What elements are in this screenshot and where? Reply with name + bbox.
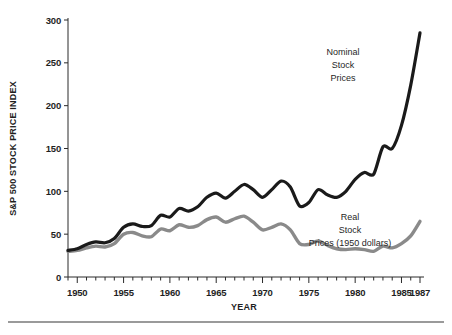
real-label-line: Real bbox=[341, 212, 360, 222]
x-tick-label: 1965 bbox=[206, 287, 227, 298]
real-label-line: Prices (1950 dollars) bbox=[309, 238, 392, 248]
y-tick-label: 200 bbox=[46, 100, 61, 111]
nominal-label: NominalStockPrices bbox=[326, 47, 359, 83]
x-tick-label: 1987 bbox=[410, 287, 430, 298]
y-tick-label: 0 bbox=[56, 272, 61, 283]
y-tick-label: 150 bbox=[46, 143, 61, 154]
x-tick-label: 1960 bbox=[160, 287, 180, 298]
nominal-label-line: Stock bbox=[332, 60, 355, 70]
y-tick-label: 250 bbox=[46, 57, 61, 68]
x-tick-label: 1955 bbox=[113, 287, 134, 298]
y-tick-label: 300 bbox=[46, 15, 61, 26]
x-tick-label: 1950 bbox=[67, 287, 87, 298]
y-tick-label: 100 bbox=[46, 186, 61, 197]
y-axis-title: S&P 500 STOCK PRICE INDEX bbox=[8, 81, 18, 216]
stock-price-index-line-chart: 0501001502002503001950195519601965197019… bbox=[0, 0, 452, 335]
chart-figure: 0501001502002503001950195519601965197019… bbox=[0, 0, 452, 335]
y-tick-label: 50 bbox=[51, 229, 61, 240]
x-tick-label: 1975 bbox=[299, 287, 320, 298]
x-tick-label: 1970 bbox=[252, 287, 272, 298]
nominal-label-line: Prices bbox=[330, 73, 356, 83]
real-label-line: Stock bbox=[339, 225, 362, 235]
real-label: RealStockPrices (1950 dollars) bbox=[309, 212, 392, 248]
nominal-label-line: Nominal bbox=[326, 47, 359, 57]
x-tick-label: 1980 bbox=[345, 287, 365, 298]
x-axis-title: YEAR bbox=[231, 302, 257, 312]
